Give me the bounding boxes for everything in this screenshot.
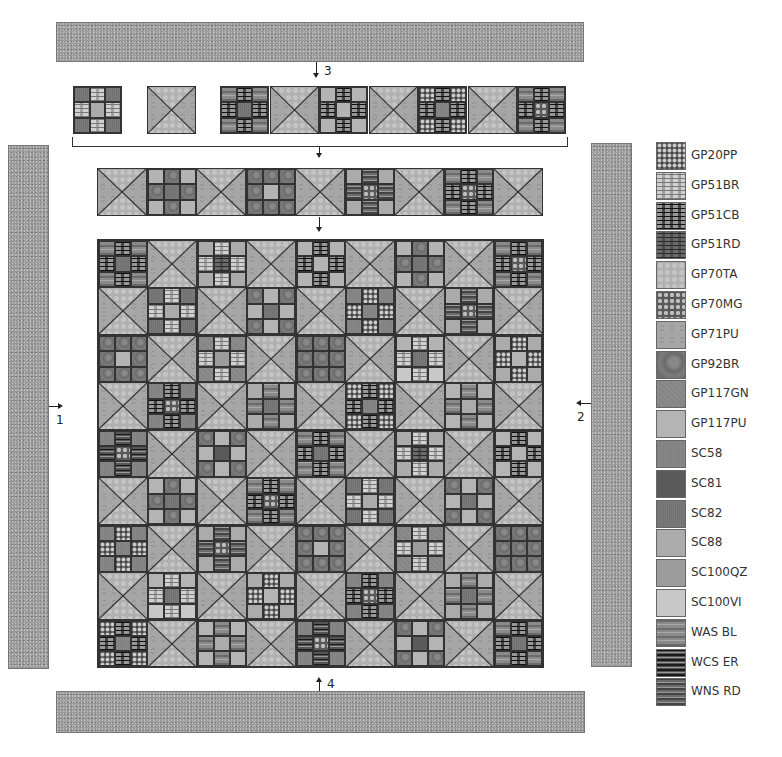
legend-item: SC100VI [656, 589, 776, 617]
patch [164, 399, 180, 414]
right-border [591, 143, 632, 667]
hourglass-block [444, 430, 494, 478]
patch [396, 621, 412, 636]
patch [329, 431, 345, 446]
patch [297, 636, 313, 651]
hourglass-block [97, 168, 147, 216]
patch [435, 102, 451, 117]
patch [214, 541, 230, 556]
patch [329, 446, 345, 461]
hourglass-block [444, 525, 494, 573]
patch [115, 541, 131, 556]
patch [313, 651, 329, 666]
patch [230, 461, 246, 476]
patch [297, 351, 313, 366]
fabric-swatch [656, 231, 686, 259]
patch [297, 241, 313, 256]
patch [495, 431, 511, 446]
patch [230, 446, 246, 461]
hourglass-block [494, 572, 544, 620]
patch [329, 367, 345, 382]
patch [164, 494, 180, 509]
patch [131, 461, 147, 476]
fabric-swatch [656, 380, 686, 408]
hourglass-block [395, 477, 445, 525]
nine-patch-block [197, 335, 247, 383]
patch [428, 636, 444, 651]
patch [527, 431, 543, 446]
patch [214, 621, 230, 636]
patch [279, 573, 295, 588]
arrowhead-left-icon [576, 400, 581, 406]
patch [362, 304, 378, 319]
nine-patch-block [220, 86, 269, 134]
patch [511, 636, 527, 651]
patch [518, 87, 534, 102]
patch [313, 431, 329, 446]
nine-patch-block [319, 86, 368, 134]
patch [461, 288, 477, 303]
patch [362, 288, 378, 303]
patch [346, 588, 362, 603]
patch [164, 414, 180, 429]
patch [495, 651, 511, 666]
hourglass-block [246, 430, 296, 478]
fabric-code-label: GP117PU [691, 416, 746, 430]
patch [99, 351, 115, 366]
patch [115, 431, 131, 446]
hourglass-block [147, 430, 197, 478]
step-label-3: 3 [324, 64, 332, 78]
patch [477, 200, 493, 215]
fabric-swatch [656, 351, 686, 379]
patch [230, 336, 246, 351]
patch [445, 184, 461, 199]
nine-patch-block [98, 620, 148, 668]
legend-item: WCS ER [656, 649, 776, 677]
patch [527, 461, 543, 476]
patch [445, 319, 461, 334]
patch [428, 556, 444, 571]
patch [445, 509, 461, 524]
patch [115, 621, 131, 636]
fabric-code-label: SC88 [691, 535, 722, 549]
patch [477, 319, 493, 334]
patch [180, 319, 196, 334]
patch [297, 556, 313, 571]
fabric-swatch [656, 678, 686, 706]
hourglass-block [395, 572, 445, 620]
patch [477, 478, 493, 493]
patch [297, 461, 313, 476]
patch [495, 526, 511, 541]
patch [461, 588, 477, 603]
patch [198, 272, 214, 287]
patch [247, 414, 263, 429]
patch [362, 399, 378, 414]
patch [435, 118, 451, 133]
patch [495, 636, 511, 651]
patch [198, 651, 214, 666]
nine-patch-block [296, 240, 346, 288]
patch [263, 169, 279, 184]
patch [362, 478, 378, 493]
patch [237, 87, 253, 102]
patch [247, 604, 263, 619]
patch [346, 304, 362, 319]
patch [297, 541, 313, 556]
step-label-1: 1 [56, 413, 64, 427]
hourglass-block [147, 240, 197, 288]
patch [148, 604, 164, 619]
patch [362, 383, 378, 398]
patch [297, 526, 313, 541]
patch [461, 304, 477, 319]
patch [148, 200, 164, 215]
patch [247, 319, 263, 334]
patch [99, 367, 115, 382]
patch [461, 383, 477, 398]
patch [297, 651, 313, 666]
patch [297, 272, 313, 287]
patch [148, 304, 164, 319]
patch [346, 478, 362, 493]
patch [131, 651, 147, 666]
patch [362, 604, 378, 619]
fabric-swatch [656, 142, 686, 170]
